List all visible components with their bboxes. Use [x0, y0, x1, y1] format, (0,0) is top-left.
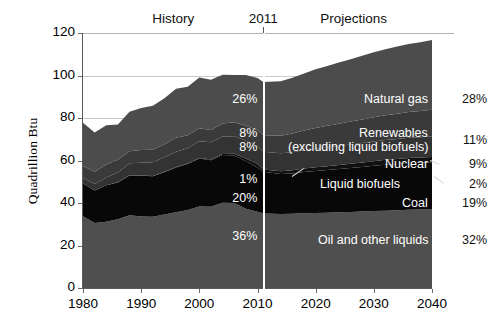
- x-tick-label-2020: 2020: [288, 296, 344, 311]
- y-tick-mark: [78, 246, 82, 247]
- stacked-area-series: [83, 33, 432, 289]
- y-tick-label-20: 20: [35, 237, 75, 252]
- projections-label: Projections: [320, 11, 387, 26]
- series-label-oil: Oil and other liquids: [318, 233, 428, 247]
- liquid-biofuels-leader-line-right: [434, 176, 445, 184]
- y-tick-mark: [78, 33, 82, 34]
- history-projection-divider: [263, 33, 265, 289]
- x-tick-mark: [83, 289, 84, 293]
- share-2011-natural-gas: 26%: [232, 92, 257, 106]
- y-tick-mark: [78, 76, 82, 77]
- share-2040-oil: 32%: [462, 233, 487, 247]
- y-tick-mark: [78, 288, 82, 289]
- y-tick-label-120: 120: [35, 24, 75, 39]
- share-2011-renewables: 8%: [239, 126, 257, 140]
- y-tick-label-100: 100: [35, 67, 75, 82]
- x-tick-mark: [141, 289, 142, 293]
- y-tick-mark: [78, 203, 82, 204]
- series-label-nuclear: Nuclear: [385, 157, 428, 171]
- x-tick-mark: [432, 289, 433, 293]
- y-axis-line: [82, 33, 83, 289]
- x-tick-label-2000: 2000: [171, 296, 227, 311]
- x-tick-mark: [258, 289, 259, 293]
- header-rule: [83, 33, 454, 34]
- share-2040-liquid-biofuels: 2%: [469, 177, 487, 191]
- series-label-renewables: Renewables: [359, 126, 428, 140]
- share-2011-coal: 20%: [232, 191, 257, 205]
- y-tick-label-80: 80: [35, 109, 75, 124]
- share-2040-nuclear: 9%: [469, 157, 487, 171]
- x-tick-mark: [199, 289, 200, 293]
- x-tick-mark: [316, 289, 317, 293]
- series-label-coal: Coal: [402, 196, 428, 210]
- share-2011-nuclear: 8%: [239, 140, 257, 154]
- x-tick-mark: [374, 289, 375, 293]
- year-marker-label: 2011: [249, 11, 278, 26]
- series-label-liquid-biofuels: Liquid biofuels: [320, 177, 400, 191]
- share-2011-liquid-biofuels: 1%: [239, 172, 257, 186]
- series-label-renewables-note: (excluding liquid biofuels): [288, 140, 428, 154]
- x-tick-label-2030: 2030: [346, 296, 402, 311]
- x-tick-label-1990: 1990: [113, 296, 169, 311]
- y-tick-label-40: 40: [35, 194, 75, 209]
- series-label-natural-gas: Natural gas: [364, 92, 428, 106]
- chart-root: Quadrillion Btu 198019902000201020202030…: [0, 0, 490, 326]
- history-label: History: [152, 11, 194, 26]
- share-2011-oil: 36%: [232, 229, 257, 243]
- x-tick-label-2040: 2040: [404, 296, 460, 311]
- x-tick-label-2010: 2010: [230, 296, 286, 311]
- y-tick-label-60: 60: [35, 152, 75, 167]
- share-2040-renewables: 11%: [463, 133, 487, 147]
- share-2040-coal: 19%: [462, 196, 487, 210]
- y-tick-mark: [78, 118, 82, 119]
- share-2040-natural-gas: 28%: [462, 92, 487, 106]
- y-tick-label-0: 0: [35, 279, 75, 294]
- x-tick-label-1980: 1980: [55, 296, 111, 311]
- y-tick-mark: [78, 161, 82, 162]
